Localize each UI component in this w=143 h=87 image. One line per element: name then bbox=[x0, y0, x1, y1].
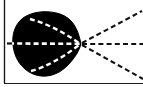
figure-canvas bbox=[0, 0, 143, 87]
figure-container bbox=[0, 0, 143, 87]
